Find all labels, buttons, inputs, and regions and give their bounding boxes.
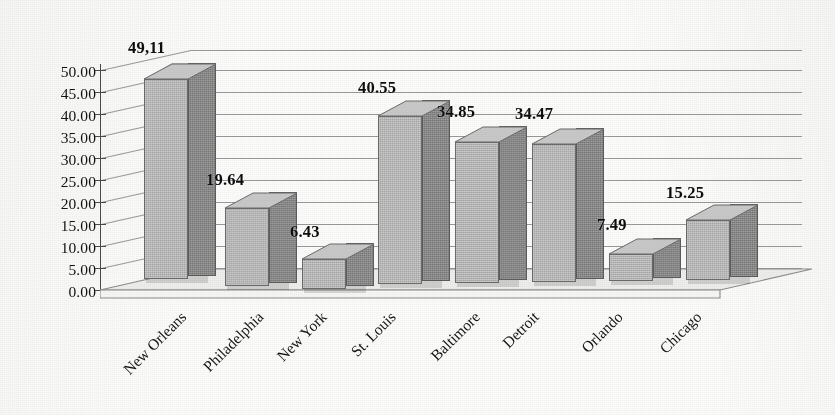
plot-area: 50.00 45.00 40.00 35.00 30.00 25.00 20.0…: [0, 0, 835, 415]
bar-value-label: 7.49: [597, 215, 627, 235]
bar-column[interactable]: [378, 100, 456, 284]
bar-value-label: 15.25: [666, 183, 704, 203]
bar-column[interactable]: [686, 204, 764, 280]
bar-value-label: 49,11: [128, 38, 165, 58]
bar-value-label: 19.64: [206, 170, 244, 190]
chart-root: 50.00 45.00 40.00 35.00 30.00 25.00 20.0…: [0, 0, 835, 415]
bar-column[interactable]: [532, 128, 610, 282]
bar-value-label: 40.55: [358, 78, 396, 98]
bar-column[interactable]: [609, 238, 687, 281]
bar-column[interactable]: [302, 243, 380, 289]
bar-column[interactable]: [455, 126, 533, 283]
bar-value-label: 34.85: [437, 102, 475, 122]
bar-value-label: 6.43: [290, 222, 320, 242]
bar-value-label: 34.47: [515, 104, 553, 124]
bars-group: 49,11 19.64 6.43: [0, 0, 835, 415]
